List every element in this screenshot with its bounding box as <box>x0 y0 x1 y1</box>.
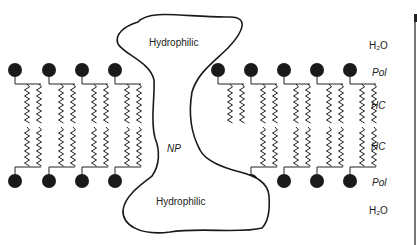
hydrocarbon-tail <box>306 127 311 166</box>
hydrocarbon-tail <box>137 84 142 123</box>
polar-head-icon <box>42 63 56 77</box>
polar-head-icon <box>108 63 122 77</box>
protein-bottom-hydrophilic-label: Hydrophilic <box>156 196 205 207</box>
hydrocarbon-tail <box>137 127 142 166</box>
hydrocarbon-tail <box>339 127 344 166</box>
polar-head-icon <box>8 63 22 77</box>
lipid-molecule <box>277 127 311 188</box>
lipid-molecule <box>310 63 344 123</box>
polar-head-icon <box>343 174 357 188</box>
polar-head-icon <box>343 63 357 77</box>
layer-label-polar-bottom: Pol <box>372 177 386 188</box>
polar-head-icon <box>75 174 89 188</box>
frame-border <box>414 14 416 245</box>
hydrocarbon-tail <box>360 84 365 123</box>
hydrocarbon-tail <box>240 84 245 123</box>
protein-top-hydrophilic-label: Hydrophilic <box>149 37 198 48</box>
hydrocarbon-tail <box>273 84 278 123</box>
polar-head-icon <box>42 174 56 188</box>
bilayer-svg <box>0 0 417 245</box>
lipid-molecule <box>42 63 76 123</box>
polar-head-icon <box>108 174 122 188</box>
hydrocarbon-tail <box>59 84 64 123</box>
polar-head-icon <box>277 63 291 77</box>
layer-label-polar-top: Pol <box>372 67 386 78</box>
hydrocarbon-tail <box>25 84 30 123</box>
layer-label-hydrocarbon-top: HC <box>371 100 385 111</box>
hydrocarbon-tail <box>327 127 332 166</box>
lipid-molecule <box>310 127 344 188</box>
polar-head-icon <box>310 63 324 77</box>
hydrocarbon-tail <box>294 84 299 123</box>
hydrocarbon-tail <box>261 127 266 166</box>
polar-head-icon <box>211 63 225 77</box>
hydrocarbon-tail <box>59 127 64 166</box>
layer-label-water-bottom: H₂O <box>369 205 388 216</box>
lipid-molecule <box>42 127 76 188</box>
hydrocarbon-tail <box>125 127 130 166</box>
hydrocarbon-tail <box>327 84 332 123</box>
layer-label-hydrocarbon-bottom: HC <box>371 141 385 152</box>
lipid-molecule <box>8 63 42 123</box>
hydrocarbon-tail <box>92 84 97 123</box>
hydrocarbon-tail <box>92 127 97 166</box>
layer-label-water-top: H₂O <box>369 40 388 51</box>
hydrocarbon-tail <box>125 84 130 123</box>
hydrocarbon-tail <box>306 84 311 123</box>
hydrocarbon-tail <box>37 127 42 166</box>
polar-head-icon <box>244 63 258 77</box>
hydrocarbon-tail <box>360 127 365 166</box>
hydrocarbon-tail <box>71 84 76 123</box>
lipid-molecule <box>75 63 109 123</box>
membrane-diagram: Hydrophilic NP Hydrophilic H₂O Pol HC HC… <box>0 0 417 245</box>
lipid-molecule <box>211 63 245 123</box>
lipid-molecule <box>108 63 142 123</box>
hydrocarbon-tail <box>339 84 344 123</box>
hydrocarbon-tail <box>25 127 30 166</box>
lipid-molecule <box>244 63 278 123</box>
protein-nonpolar-label: NP <box>167 143 181 154</box>
hydrocarbon-tail <box>261 84 266 123</box>
hydrocarbon-tail <box>104 127 109 166</box>
hydrocarbon-tail <box>294 127 299 166</box>
hydrocarbon-tail <box>104 84 109 123</box>
lipid-molecule <box>108 127 142 188</box>
hydrocarbon-tail <box>71 127 76 166</box>
lipid-molecule <box>8 127 42 188</box>
hydrocarbon-tail <box>37 84 42 123</box>
polar-head-icon <box>8 174 22 188</box>
hydrocarbon-tail <box>228 84 233 123</box>
polar-head-icon <box>310 174 324 188</box>
polar-head-icon <box>75 63 89 77</box>
lipid-molecule <box>277 63 311 123</box>
lipid-molecule <box>75 127 109 188</box>
hydrocarbon-tail <box>273 127 278 166</box>
polar-head-icon <box>277 174 291 188</box>
